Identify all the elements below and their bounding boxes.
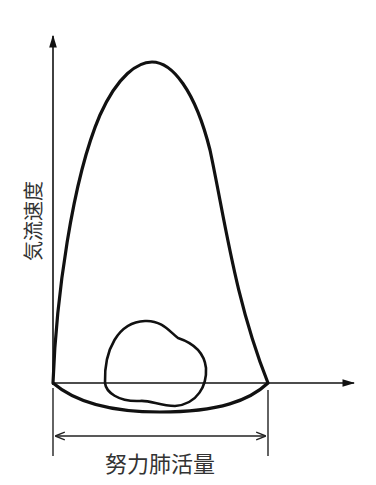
x-dimension-label: 努力肺活量 [105,452,215,477]
tidal-flow-volume-loop [105,321,206,406]
y-axis-label: 気流速度 [22,181,46,261]
flow-volume-diagram: 努力肺活量 気流速度 [0,0,376,485]
max-effort-flow-volume-loop [53,62,268,412]
